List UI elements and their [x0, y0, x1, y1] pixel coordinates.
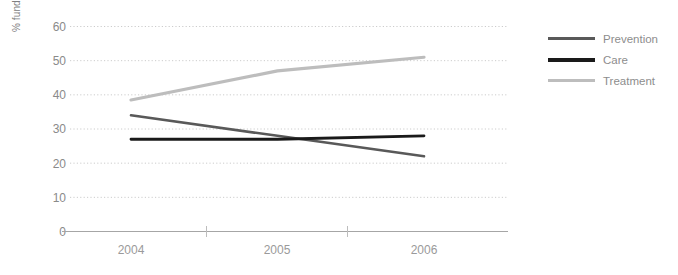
- series-treatment: [131, 57, 424, 100]
- line-chart: % funding 60 50 40 30 20 10 0 2004 2005 …: [0, 0, 678, 275]
- legend-label-care: Care: [603, 54, 628, 66]
- legend-label-treatment: Treatment: [603, 75, 655, 87]
- x-tick-label-2004: 2004: [101, 244, 161, 256]
- legend-swatch-treatment-icon: [548, 79, 595, 82]
- legend-item-treatment: Treatment: [548, 70, 678, 91]
- legend-swatch-prevention-icon: [548, 37, 595, 40]
- chart-legend: Prevention Care Treatment: [548, 28, 678, 91]
- legend-swatch-care-icon: [548, 58, 595, 62]
- x-tick-label-2005: 2005: [247, 244, 307, 256]
- gridlines: [70, 27, 508, 198]
- legend-item-care: Care: [548, 49, 678, 70]
- x-tick-label-2006: 2006: [394, 244, 454, 256]
- legend-label-prevention: Prevention: [603, 33, 658, 45]
- legend-item-prevention: Prevention: [548, 28, 678, 49]
